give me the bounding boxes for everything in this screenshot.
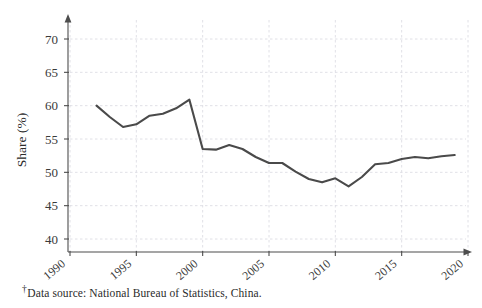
y-axis-ticks: 40455055606570 [45, 32, 69, 247]
y-tick-label: 50 [45, 165, 58, 180]
x-tick-label: 2015 [372, 257, 399, 283]
line-chart-canvas: 40455055606570 1990199520002005201020152… [0, 0, 482, 308]
footnote: †Data source: National Bureau of Statist… [22, 284, 262, 299]
y-tick-label: 55 [45, 132, 58, 147]
y-axis-arrow [65, 14, 72, 23]
axes [65, 14, 472, 255]
footnote-text: Data source: National Bureau of Statisti… [27, 287, 261, 299]
y-tick-label: 45 [45, 198, 58, 213]
x-tick-label: 1990 [41, 257, 68, 283]
y-axis-title: Share (%) [14, 113, 29, 167]
y-tick-label: 60 [45, 98, 58, 113]
x-tick-label: 2000 [173, 257, 200, 283]
y-tick-label: 70 [45, 32, 58, 47]
x-tick-label: 2010 [306, 257, 333, 283]
x-tick-label: 2005 [240, 257, 267, 283]
data-series-line [97, 100, 455, 187]
y-tick-label: 40 [45, 232, 58, 247]
x-tick-label: 2020 [439, 257, 466, 283]
chart-figure: 40455055606570 1990199520002005201020152… [0, 0, 482, 308]
x-axis-ticks: 1990199520002005201020152020 [41, 251, 468, 283]
x-tick-label: 1995 [107, 257, 134, 283]
y-tick-label: 65 [45, 65, 58, 80]
grid-lines [70, 20, 468, 252]
